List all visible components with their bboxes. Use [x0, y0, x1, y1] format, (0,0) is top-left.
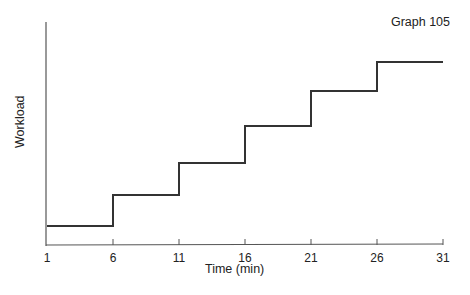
x-tick-label: 21 [304, 251, 318, 265]
x-tick-label: 26 [370, 251, 384, 265]
x-tick-label: 11 [173, 251, 186, 265]
x-tick-label: 6 [110, 251, 117, 265]
x-tick-label: 1 [44, 251, 51, 265]
x-tick-label: 31 [436, 251, 450, 265]
x-tick-label: 16 [238, 251, 252, 265]
workload-step-line [47, 62, 443, 226]
x-axis-ticks: 161116212631 [44, 239, 450, 265]
step-chart: 161116212631 [0, 0, 470, 295]
